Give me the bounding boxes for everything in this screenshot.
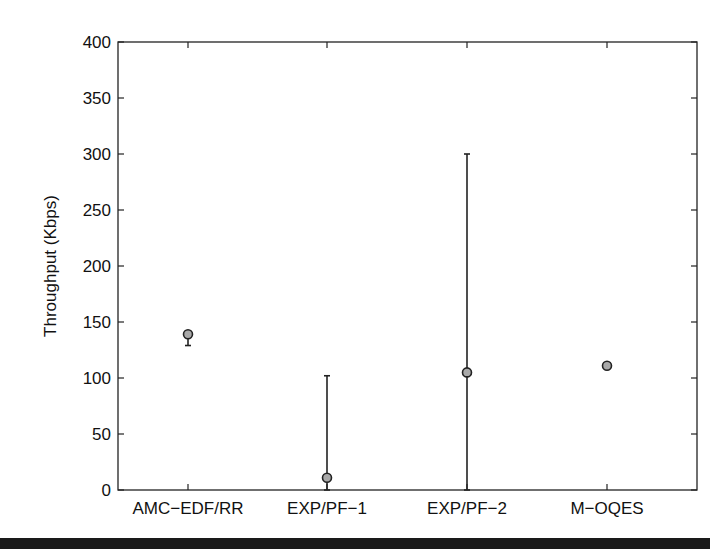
data-markers bbox=[184, 330, 612, 482]
y-tick-label: 350 bbox=[83, 89, 111, 108]
data-point-marker bbox=[603, 361, 612, 370]
y-axis-ticks: 050100150200250300350400 bbox=[83, 33, 697, 500]
y-tick-label: 250 bbox=[83, 201, 111, 220]
data-point-marker bbox=[323, 473, 332, 482]
y-tick-label: 50 bbox=[92, 425, 111, 444]
plot-frame bbox=[118, 42, 697, 490]
y-axis-label: Throughput (Kbps) bbox=[41, 195, 60, 337]
plot-border bbox=[118, 42, 697, 490]
y-tick-label: 150 bbox=[83, 313, 111, 332]
x-tick-label: EXP/PF−1 bbox=[287, 499, 367, 518]
data-point-marker bbox=[184, 330, 193, 339]
y-tick-label: 400 bbox=[83, 33, 111, 52]
x-tick-label: EXP/PF−2 bbox=[427, 499, 507, 518]
y-tick-label: 100 bbox=[83, 369, 111, 388]
y-tick-label: 300 bbox=[83, 145, 111, 164]
x-axis-ticks: AMC−EDF/RREXP/PF−1EXP/PF−2M−OQES bbox=[133, 42, 644, 518]
x-tick-label: M−OQES bbox=[570, 499, 643, 518]
bottom-border-bar bbox=[0, 538, 710, 549]
y-tick-label: 0 bbox=[102, 481, 111, 500]
x-tick-label: AMC−EDF/RR bbox=[133, 499, 244, 518]
y-tick-label: 200 bbox=[83, 257, 111, 276]
errorbar-chart: 050100150200250300350400 AMC−EDF/RREXP/P… bbox=[0, 0, 710, 549]
error-bars bbox=[185, 154, 470, 490]
data-point-marker bbox=[463, 368, 472, 377]
